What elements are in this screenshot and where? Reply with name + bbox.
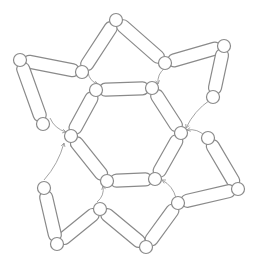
node-top-left-inner — [76, 66, 89, 79]
node-hex-tl — [90, 84, 103, 97]
node-hex-l — [65, 130, 78, 143]
node-hex-bl — [101, 175, 114, 188]
curved-arrow — [186, 100, 210, 128]
capsule-link — [204, 137, 242, 189]
node-top-peak — [110, 14, 123, 27]
capsule-link — [110, 173, 153, 188]
capsule-hexagon-diagram — [0, 0, 261, 266]
node-top-left-outer — [14, 54, 27, 67]
node-hex-tr — [146, 82, 159, 95]
node-right-outer — [232, 183, 245, 196]
node-top-right-inner — [159, 57, 172, 70]
node-bottom-mid — [140, 241, 153, 254]
node-right-inner — [172, 197, 185, 210]
node-left-tail — [37, 118, 50, 131]
capsule-link — [38, 189, 62, 242]
node-hex-r — [175, 127, 188, 140]
capsule-link — [114, 17, 167, 66]
node-hex-br — [149, 173, 162, 186]
capsule-link — [179, 183, 236, 208]
node-bottom-left — [51, 238, 64, 251]
node-bottom-inner — [94, 203, 107, 216]
node-top-right-outer — [218, 40, 231, 53]
capsule-link — [78, 19, 120, 73]
node-right-top — [202, 132, 215, 145]
capsule-link — [99, 82, 149, 97]
curved-arrow — [44, 143, 64, 180]
node-left-bottom-tail — [38, 182, 51, 195]
node-right-tail — [207, 91, 220, 104]
